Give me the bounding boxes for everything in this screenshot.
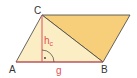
right-angle-dot <box>44 57 46 59</box>
parallelogram-diagram: C A B hc g <box>0 0 137 78</box>
base-label-g: g <box>56 65 62 76</box>
vertex-label-b: B <box>101 64 108 75</box>
vertex-label-a: A <box>9 64 16 75</box>
vertex-label-c: C <box>34 5 41 16</box>
